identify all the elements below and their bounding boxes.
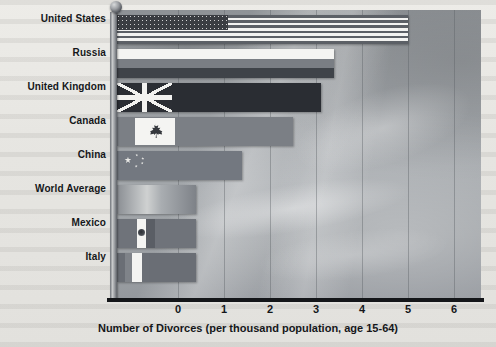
- x-tick-4: 4: [359, 303, 365, 315]
- gridline-4: [362, 10, 363, 298]
- gridline-5: [408, 10, 409, 298]
- bar-mexico[interactable]: [117, 219, 196, 248]
- flagpole-axis: [110, 12, 117, 300]
- united-kingdom-flag: [117, 83, 321, 112]
- cloud-streak-lower: [222, 196, 481, 298]
- bar-united-kingdom[interactable]: [117, 83, 321, 112]
- italy-tricolor: [125, 253, 149, 282]
- mexico-tricolor: [128, 219, 155, 248]
- union-jack-icon: [117, 83, 172, 112]
- divorce-rate-bar-chart: United StatesRussiaUnited KingdomCanadaC…: [0, 0, 496, 347]
- gridline-6: [454, 10, 455, 298]
- bar-world-average[interactable]: [117, 185, 196, 214]
- x-tick-1: 1: [221, 303, 227, 315]
- category-label-united-kingdom: United Kingdom: [2, 81, 106, 92]
- plot-area: [117, 10, 481, 298]
- sphere-finial-icon: [110, 1, 122, 13]
- united-states-flag: [117, 15, 408, 44]
- bar-canada[interactable]: [117, 117, 293, 146]
- canada-flag: [117, 117, 293, 146]
- bar-russia[interactable]: [117, 49, 334, 78]
- russia-flag: [117, 49, 334, 78]
- x-tick-5: 5: [405, 303, 411, 315]
- eagle-emblem-icon: [138, 229, 145, 236]
- maple-leaf-icon: [135, 118, 175, 145]
- italy-flag: [117, 253, 196, 282]
- x-tick-3: 3: [313, 303, 319, 315]
- category-label-china: China: [2, 149, 106, 160]
- x-tick-2: 2: [267, 303, 273, 315]
- category-label-canada: Canada: [2, 115, 106, 126]
- x-axis-line: [107, 298, 484, 302]
- mexico-flag: [117, 219, 196, 248]
- five-stars-icon: [123, 153, 153, 168]
- category-label-russia: Russia: [2, 47, 106, 58]
- stars-canton-icon: [117, 15, 228, 30]
- world-average-band: [117, 185, 196, 214]
- category-label-mexico: Mexico: [2, 217, 106, 228]
- category-label-united-states: United States: [2, 13, 106, 24]
- category-axis-labels: United StatesRussiaUnited KingdomCanadaC…: [0, 0, 106, 298]
- bar-italy[interactable]: [117, 253, 196, 282]
- category-label-world-average: World Average: [2, 183, 106, 194]
- china-flag: [117, 151, 242, 180]
- x-tick-6: 6: [451, 303, 457, 315]
- bar-united-states[interactable]: [117, 15, 408, 44]
- bar-china[interactable]: [117, 151, 242, 180]
- category-label-italy: Italy: [2, 251, 106, 262]
- x-axis-title: Number of Divorces (per thousand populat…: [0, 322, 496, 334]
- x-tick-0: 0: [175, 303, 181, 315]
